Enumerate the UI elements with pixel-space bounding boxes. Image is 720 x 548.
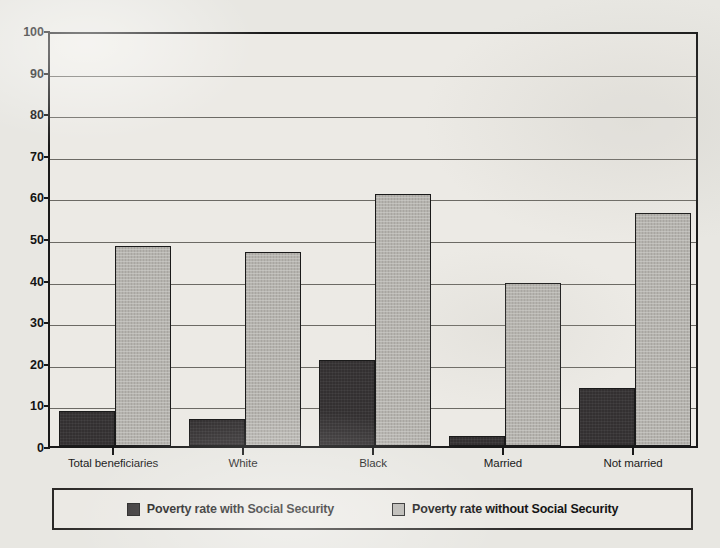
bar (115, 246, 171, 446)
bar-chart: 1009080706050403020100 Total beneficiari… (0, 0, 720, 548)
x-axis-tick-mark (502, 448, 504, 455)
gridline (50, 200, 696, 201)
bar (579, 388, 635, 446)
gridline (50, 242, 696, 243)
bar-texture (580, 389, 634, 445)
bar-texture (636, 214, 690, 445)
plot-area (48, 32, 698, 448)
x-axis-tick-label: Total beneficiaries (68, 457, 158, 469)
gridline (50, 76, 696, 77)
gridline (50, 159, 696, 160)
bar-texture (376, 195, 430, 445)
bar (59, 411, 115, 446)
bar-texture (506, 284, 560, 445)
x-axis-tick-label: Not married (604, 457, 663, 469)
bar (189, 419, 245, 446)
x-axis-tick-mark (242, 448, 244, 455)
bar (319, 360, 375, 446)
bar-texture (320, 361, 374, 445)
x-axis-tick-label: Black (359, 457, 387, 469)
legend-label: Poverty rate without Social Security (412, 502, 618, 516)
x-axis-tick-mark (112, 448, 114, 455)
bar (245, 252, 301, 446)
bar-texture (450, 437, 504, 445)
x-axis-tick-mark (372, 448, 374, 455)
legend-label: Poverty rate with Social Security (147, 502, 334, 516)
legend-entry[interactable]: Poverty rate without Social Security (392, 502, 618, 516)
legend-swatch-icon (392, 503, 405, 516)
legend-entry[interactable]: Poverty rate with Social Security (127, 502, 334, 516)
x-axis: Total beneficiariesWhiteBlackMarriedNot … (48, 448, 698, 482)
y-axis-tick-marks (0, 32, 54, 448)
x-axis-tick-mark (632, 448, 634, 455)
bar-texture (60, 412, 114, 445)
bar-texture (246, 253, 300, 445)
x-axis-tick-label: Married (484, 457, 522, 469)
bar (505, 283, 561, 446)
gridline (50, 117, 696, 118)
bar-texture (116, 247, 170, 445)
chart-title (0, 0, 720, 12)
bar (375, 194, 431, 446)
plot-inner (50, 34, 696, 446)
legend-swatch-icon (127, 503, 140, 516)
bar (635, 213, 691, 446)
chart-legend: Poverty rate with Social SecurityPoverty… (52, 488, 693, 530)
bar-texture (190, 420, 244, 445)
x-axis-tick-label: White (229, 457, 258, 469)
bar (449, 436, 505, 446)
